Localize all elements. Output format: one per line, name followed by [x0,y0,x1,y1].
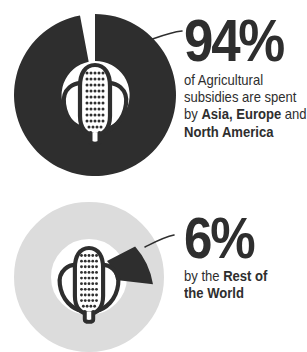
caption-6-line-1-prefix: by the [184,268,223,284]
caption-94-line-3-bold: Asia, Europe [201,106,281,122]
stat-6-text: 6% by the Rest of the World [184,214,303,302]
donut-chart-94 [14,14,176,176]
caption-6: by the Rest of the World [184,268,291,302]
donut-94-svg [14,14,176,176]
caption-6-line-2: the World [184,285,291,302]
donut-6-svg [14,202,164,352]
caption-94-line-3-prefix: by [184,106,201,122]
caption-6-line-1: by the Rest of [184,268,291,285]
stat-block-6: 6% by the Rest of the World [0,186,303,343]
caption-94-line-2: subsidies are spent [184,89,291,106]
caption-94-line-3-suffix: and [281,106,306,122]
stat-block-94: 94% of Agricultural subsidies are spent … [0,0,303,186]
caption-94-line-3: by Asia, Europe and [184,106,291,123]
caption-94-line-4: North America [184,124,291,141]
stat-94-text: 94% of Agricultural subsidies are spent … [184,16,303,141]
caption-6-line-2-bold: the World [184,285,244,301]
donut-chart-6 [14,202,164,352]
caption-94-line-4-bold: North America [184,124,273,140]
percent-value-6: 6% [184,214,289,262]
percent-value-94: 94% [184,16,289,65]
caption-94-line-1: of Agricultural [184,72,291,89]
caption-6-line-1-bold: Rest of [223,268,267,284]
caption-94: of Agricultural subsidies are spent by A… [184,72,291,140]
leader-line-94 [150,31,182,40]
